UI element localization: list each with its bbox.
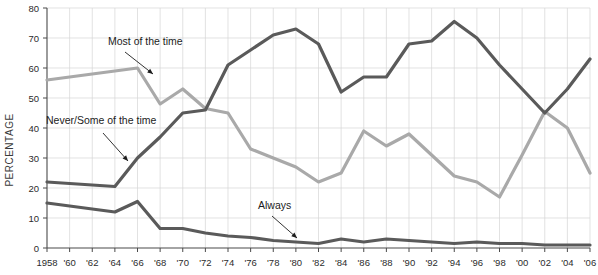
annotation-leader-line (103, 133, 128, 161)
x-tick-label: '86 (358, 257, 370, 268)
y-tick-label: 60 (28, 63, 39, 74)
y-tick-label: 80 (28, 3, 39, 14)
x-tick-label: '72 (199, 257, 211, 268)
x-tick-label: '96 (471, 257, 483, 268)
x-tick-label: '74 (222, 257, 234, 268)
y-tick-label: 10 (28, 213, 39, 224)
x-tick-label: '62 (86, 257, 98, 268)
y-axis-title: PERCENTAGE (4, 113, 15, 186)
annotation-label: Always (258, 199, 291, 211)
annotation-label: Most of the time (108, 35, 183, 47)
y-tick-label: 40 (28, 123, 39, 134)
y-axis-tick-labels: 01020304050607080 (28, 3, 39, 254)
line-chart: 01020304050607080 1958'60'62'64'66'68'70… (0, 0, 598, 275)
x-tick-label: '04 (561, 257, 573, 268)
x-tick-label: '68 (154, 257, 166, 268)
y-tick-label: 0 (34, 243, 39, 254)
x-tick-label: '84 (335, 257, 347, 268)
chart-canvas: 01020304050607080 1958'60'62'64'66'68'70… (0, 0, 598, 275)
y-tick-label: 20 (28, 183, 39, 194)
x-tick-label: '02 (539, 257, 551, 268)
x-axis-tick-labels: 1958'60'62'64'66'68'70'72'74'76'78'80'82… (36, 257, 596, 268)
x-tick-label: '98 (493, 257, 505, 268)
y-tick-label: 30 (28, 153, 39, 164)
x-tick-label: '60 (63, 257, 75, 268)
x-tick-label: '06 (584, 257, 596, 268)
x-tick-label: '82 (312, 257, 324, 268)
x-tick-label: '64 (109, 257, 121, 268)
annotation-label: Never/Some of the time (46, 114, 156, 126)
x-tick-label: '66 (131, 257, 143, 268)
x-tick-label: 1958 (36, 257, 57, 268)
x-tick-label: '92 (425, 257, 437, 268)
y-tick-label: 50 (28, 93, 39, 104)
x-tick-label: '76 (244, 257, 256, 268)
x-tick-label: '70 (177, 257, 189, 268)
x-tick-label: '94 (448, 257, 460, 268)
x-tick-label: '88 (380, 257, 392, 268)
y-tick-label: 70 (28, 33, 39, 44)
x-tick-label: '90 (403, 257, 415, 268)
x-tick-label: '80 (290, 257, 302, 268)
x-tick-label: '00 (516, 257, 528, 268)
x-tick-label: '78 (267, 257, 279, 268)
annotation-arrowhead (147, 69, 153, 74)
